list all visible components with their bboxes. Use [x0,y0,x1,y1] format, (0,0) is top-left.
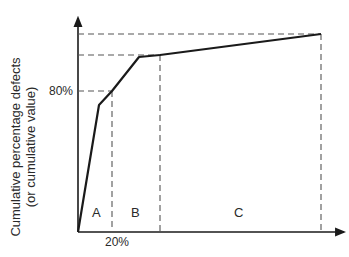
region-label-a: A [92,205,101,220]
region-label-c: C [234,205,243,220]
region-label-b: B [131,205,140,220]
y-tick-80-percent: 80% [49,84,73,98]
x-tick-20-percent: 20% [105,235,129,249]
pareto-abc-diagram [0,0,349,257]
cumulative-curve [78,34,321,232]
